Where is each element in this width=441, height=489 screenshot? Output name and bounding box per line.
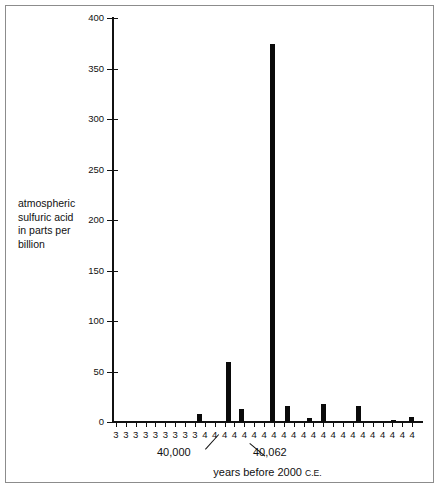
bar-2: [226, 362, 231, 422]
x-tick-14: [254, 422, 255, 427]
bar-7: [321, 404, 326, 422]
y-tick-label-wrap-100: 100: [74, 316, 104, 326]
x-tick-27: [383, 422, 384, 427]
y-axis-label-line-3: in parts per: [18, 224, 106, 238]
x-tick-7: [185, 422, 186, 427]
x-tick-label-30: 4: [406, 429, 418, 440]
x-tick-0: [116, 422, 117, 427]
x-tick-30: [412, 422, 413, 427]
figure-container: atmospheric sulfuric acid in parts per b…: [0, 0, 441, 489]
x-tick-24: [353, 422, 354, 427]
x-tick-12: [234, 422, 235, 427]
bar-series: [113, 18, 423, 422]
bar-10: [409, 417, 414, 422]
bar-9: [391, 420, 396, 422]
x-tick-3: [146, 422, 147, 427]
x-tick-29: [402, 422, 403, 427]
y-tick-label-wrap-250: 250: [74, 165, 104, 175]
x-tick-23: [343, 422, 344, 427]
y-axis-label-line-1: atmospheric: [18, 197, 106, 211]
x-tick-25: [363, 422, 364, 427]
y-tick-label-150: 150: [78, 266, 104, 276]
y-tick-label-wrap-350: 350: [74, 64, 104, 74]
y-tick-label-wrap-300: 300: [74, 114, 104, 124]
x-tick-1: [126, 422, 127, 427]
bar-8: [356, 406, 361, 422]
x-tick-17: [284, 422, 285, 427]
y-tick-label-wrap-0: 0: [74, 417, 104, 427]
x-axis-label-era: C.E.: [305, 468, 322, 478]
x-tick-21: [323, 422, 324, 427]
y-tick-label-50: 50: [78, 367, 104, 377]
bar-5: [285, 406, 290, 422]
x-tick-13: [244, 422, 245, 427]
x-tick-15: [264, 422, 265, 427]
y-tick-label-400: 400: [78, 13, 104, 23]
x-tick-19: [304, 422, 305, 427]
x-tick-10: [215, 422, 216, 427]
x-tick-8: [195, 422, 196, 427]
y-tick-label-300: 300: [78, 114, 104, 124]
x-tick-22: [333, 422, 334, 427]
x-tick-11: [225, 422, 226, 427]
x-axis-label: years before 2000 C.E.: [112, 466, 423, 478]
y-tick-label-wrap-400: 400: [74, 13, 104, 23]
y-tick-label-250: 250: [78, 165, 104, 175]
x-tick-5: [165, 422, 166, 427]
x-tick-2: [136, 422, 137, 427]
x-tick-28: [392, 422, 393, 427]
callout-40000-label: 40,000: [157, 446, 191, 458]
y-tick-label-100: 100: [78, 316, 104, 326]
x-tick-18: [294, 422, 295, 427]
callout-40062-label: 40,062: [253, 446, 287, 458]
x-tick-6: [175, 422, 176, 427]
x-tick-16: [274, 422, 275, 427]
y-tick-label-200: 200: [78, 215, 104, 225]
y-tick-label-wrap-200: 200: [74, 215, 104, 225]
y-tick-label-wrap-50: 50: [74, 367, 104, 377]
y-axis-label-line-4: billion: [18, 238, 106, 252]
bar-6: [307, 418, 312, 422]
x-tick-26: [373, 422, 374, 427]
x-tick-9: [205, 422, 206, 427]
x-tick-20: [313, 422, 314, 427]
bar-1: [197, 414, 202, 422]
y-tick-label-350: 350: [78, 64, 104, 74]
y-tick-label-wrap-150: 150: [74, 266, 104, 276]
x-tick-4: [155, 422, 156, 427]
x-axis-label-text: years before 2000: [213, 466, 305, 478]
y-tick-label-0: 0: [78, 417, 104, 427]
bar-4: [270, 44, 275, 422]
bar-3: [239, 409, 244, 422]
